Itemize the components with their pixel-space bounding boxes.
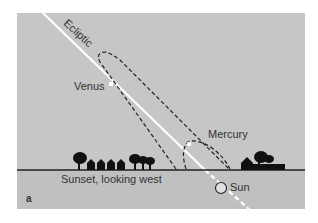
panel-letter: a bbox=[26, 193, 32, 204]
mercury-marker bbox=[187, 142, 191, 146]
venus-orbit-path bbox=[98, 52, 229, 169]
right-silhouette bbox=[241, 151, 285, 170]
horizon-caption: Sunset, looking west bbox=[61, 173, 162, 185]
diagram-svg: Ecliptic bbox=[0, 0, 318, 223]
left-silhouette bbox=[73, 152, 155, 170]
sun-marker bbox=[216, 183, 227, 194]
sun-label: Sun bbox=[230, 181, 250, 193]
venus-marker bbox=[109, 82, 113, 86]
ecliptic-label: Ecliptic bbox=[62, 17, 96, 50]
venus-label: Venus bbox=[74, 80, 105, 92]
mercury-label: Mercury bbox=[208, 128, 248, 140]
ecliptic-line bbox=[43, 13, 205, 170]
